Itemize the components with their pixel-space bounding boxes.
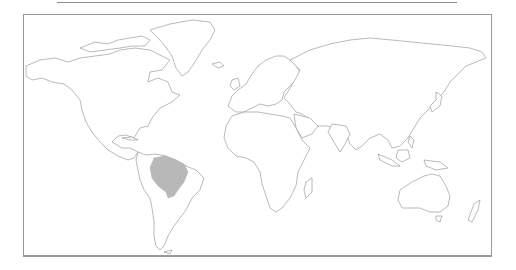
world-map	[0, 0, 516, 270]
north-america	[26, 48, 180, 160]
philippines	[408, 136, 414, 148]
south-shetland-fragment	[164, 250, 172, 254]
madagascar	[304, 178, 312, 198]
tasmania	[436, 216, 442, 222]
cuba	[122, 137, 138, 140]
new-guinea	[424, 160, 448, 170]
australia	[398, 174, 450, 212]
british-isles	[230, 78, 240, 90]
asia	[284, 38, 486, 150]
new-zealand	[468, 200, 480, 222]
iceland	[212, 62, 224, 68]
india	[328, 124, 350, 152]
borneo	[396, 150, 410, 162]
